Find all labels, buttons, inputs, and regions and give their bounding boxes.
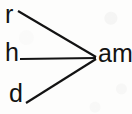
rime-label-am: am [98,41,132,66]
onset-letter-h: h [5,40,19,65]
onset-letter-r: r [5,2,13,27]
word-family-diagram: r h d am [0,0,132,114]
connector-line-r-to-am [18,11,96,57]
connector-line-d-to-am [26,59,96,103]
connector-line-h-to-am [20,58,96,59]
onset-letter-d: d [9,81,23,106]
